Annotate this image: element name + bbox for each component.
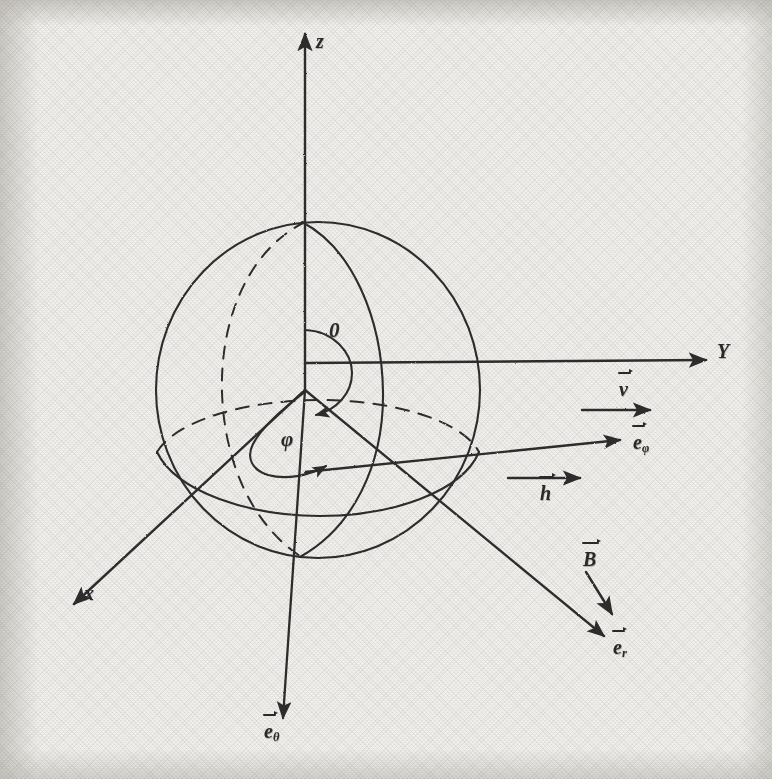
vector-label-e-r-text: e <box>613 636 622 659</box>
vector-label-e-r-subscript: r <box>622 646 627 660</box>
vector-label-e-r: er <box>613 636 627 661</box>
vector-label-B: B <box>583 548 596 571</box>
equator-back-dashed <box>157 400 479 452</box>
angle-label-phi: φ <box>281 427 293 452</box>
vector-label-e-phi-text: e <box>633 431 642 454</box>
figure-canvas: z Y x 0 φ v eφ h B er eθ <box>0 0 772 779</box>
vector-label-h-text: h <box>540 482 551 505</box>
vector-label-e-theta-subscript: θ <box>273 730 279 744</box>
vector-label-e-phi: eφ <box>633 431 649 456</box>
axis-y <box>305 360 706 363</box>
sphere-outline <box>156 222 480 558</box>
vector-B <box>586 572 612 614</box>
vector-label-e-phi-subscript: φ <box>642 441 649 455</box>
equator-front <box>157 452 479 516</box>
coordinate-system-drawing <box>0 0 772 779</box>
meridian-back-dashed <box>222 222 305 556</box>
vector-label-h: h <box>540 482 551 505</box>
vector-label-v-text: v <box>619 378 628 401</box>
vector-label-e-theta: eθ <box>264 720 279 745</box>
meridian-front <box>300 222 383 557</box>
axis-label-z: z <box>316 30 324 53</box>
scanned-page: z Y x 0 φ v eφ h B er eθ <box>0 0 772 779</box>
vector-e-r <box>305 390 604 636</box>
origin-label: 0 <box>329 318 340 343</box>
axis-label-x: x <box>84 582 94 605</box>
vector-label-v: v <box>619 378 628 401</box>
vector-label-B-text: B <box>583 548 596 571</box>
axis-label-y: Y <box>717 340 729 363</box>
vector-label-e-theta-text: e <box>264 720 273 743</box>
